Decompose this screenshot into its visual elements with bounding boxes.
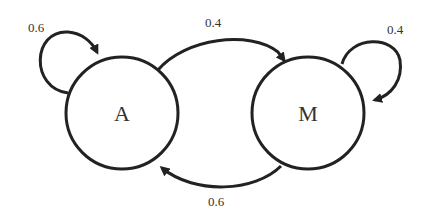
node-a-label: A xyxy=(114,101,130,126)
markov-diagram: A M 0.6 0.4 0.4 0.6 xyxy=(0,0,430,215)
node-m: M xyxy=(252,57,364,169)
edge-m-to-a-label: 0.6 xyxy=(208,194,225,209)
edge-a-to-a: 0.6 xyxy=(28,20,97,93)
edge-a-to-m: 0.4 xyxy=(158,15,284,70)
edge-a-to-a-label: 0.6 xyxy=(28,20,45,35)
edge-m-to-m-label: 0.4 xyxy=(387,22,404,37)
node-m-label: M xyxy=(298,101,318,126)
edge-m-to-a: 0.6 xyxy=(162,166,281,209)
edge-m-to-m: 0.4 xyxy=(342,22,404,100)
edge-a-to-m-label: 0.4 xyxy=(205,15,222,30)
node-a: A xyxy=(66,57,178,169)
